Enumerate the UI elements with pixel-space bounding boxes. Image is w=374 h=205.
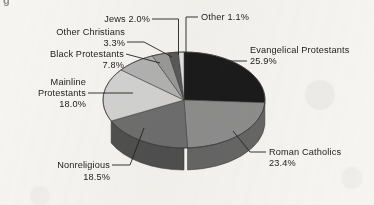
label-other: Other 1.1% xyxy=(201,12,249,22)
label-nonreligious-name: Nonreligious xyxy=(57,160,110,170)
label-nonreligious-value: 18.5% xyxy=(83,172,110,182)
label-evangelical-protestants-value: 25.9% xyxy=(250,56,277,66)
label-mainline-protestants-line1: Mainline xyxy=(51,77,86,87)
leader-other xyxy=(186,17,198,55)
pie-chart-svg: Jews 2.0% Other 1.1% Other Christians 3.… xyxy=(0,0,374,205)
label-evangelical-protestants-name: Evangelical Protestants xyxy=(250,45,350,55)
label-other-christians-name: Other Christians xyxy=(56,27,125,37)
label-mainline-protestants-line2: Protestants xyxy=(38,88,86,98)
pie-top-face xyxy=(103,52,265,148)
pie-chart-figure: g xyxy=(0,0,374,205)
label-mainline-protestants-value: 18.0% xyxy=(59,99,86,109)
label-roman-catholics-value: 23.4% xyxy=(269,158,296,168)
label-other-christians-value: 3.3% xyxy=(103,38,125,48)
label-black-protestants-name: Black Protestants xyxy=(50,49,124,59)
label-jews: Jews 2.0% xyxy=(104,14,150,24)
label-black-protestants-value: 7.8% xyxy=(102,60,124,70)
label-roman-catholics-name: Roman Catholics xyxy=(269,147,341,157)
leader-jews xyxy=(152,19,179,55)
